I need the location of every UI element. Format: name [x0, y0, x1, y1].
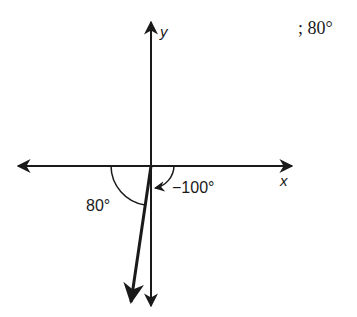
angle-diagram: y x 80° −100° ; 80°: [0, 0, 357, 317]
angle-vector: [131, 166, 151, 302]
x-axis-label: x: [279, 172, 288, 189]
reference-angle-label: 80°: [86, 197, 110, 214]
reference-angle-arc: [111, 166, 145, 205]
answer-text: ; 80°: [298, 18, 333, 38]
negative-angle-label: −100°: [172, 179, 214, 196]
y-axis-label: y: [159, 23, 169, 40]
